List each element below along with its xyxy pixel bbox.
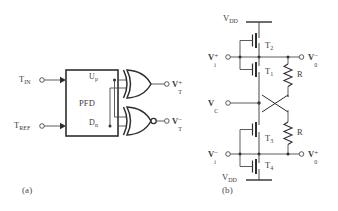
t-in-label: TIN: [19, 75, 31, 84]
resistor-lower-symbol: [284, 112, 292, 154]
xnor-inversion-bubble: [151, 118, 156, 123]
vi-plus-label: V+i: [208, 53, 218, 62]
vo-plus-label: V+0: [308, 150, 318, 159]
panel-a-graphics: [40, 70, 169, 136]
t-ref-label: TREF: [14, 121, 30, 130]
xnor-gate-shape: [124, 107, 170, 135]
transistor-t1-label: T1: [265, 67, 273, 76]
transistor-t2-label: T2: [265, 41, 273, 50]
transistor-t4-label: T4: [265, 161, 273, 170]
vt-plus-label: V+T: [172, 80, 182, 89]
resistor-lower-label: R: [297, 128, 303, 137]
vi-minus-label: V−i: [208, 150, 218, 159]
resistor-upper-symbol: [284, 57, 292, 97]
t-ref-wire: [40, 123, 66, 129]
pfd-block-label: PFD: [79, 99, 95, 108]
panel-a-tag: (a): [22, 186, 32, 195]
vi-minus-net: [226, 152, 304, 157]
transistor-t4-symbol: [240, 154, 259, 180]
transistor-t2-symbol: [240, 30, 259, 57]
vdd-top-label: VDD: [223, 14, 238, 23]
vi-plus-net: [226, 55, 304, 60]
vc-label: VC: [208, 99, 218, 108]
transistor-t3-symbol: [240, 110, 259, 154]
transistor-t1-symbol: [240, 57, 259, 97]
circuit-schematic-canvas: [0, 0, 338, 211]
transistor-t3-label: T3: [265, 134, 273, 143]
xor-gate-shape: [124, 70, 170, 98]
vt-minus-label: V−T: [172, 117, 182, 126]
panel-b-tag: (b): [222, 186, 233, 195]
vdd-top-symbol: [246, 22, 272, 30]
resistor-upper-label: R: [297, 70, 303, 79]
up-output-label: Up: [89, 73, 98, 81]
t-in-wire: [40, 77, 66, 83]
vo-minus-label: V−0: [308, 53, 318, 62]
figure-container: TIN TREF PFD Up Dn V+T V−T (a) VDD T2 V+…: [0, 0, 338, 211]
dn-output-label: Dn: [89, 119, 98, 127]
vdd-bottom-label: VDD: [222, 173, 237, 182]
vc-net-and-crosscouple: [226, 95, 288, 112]
